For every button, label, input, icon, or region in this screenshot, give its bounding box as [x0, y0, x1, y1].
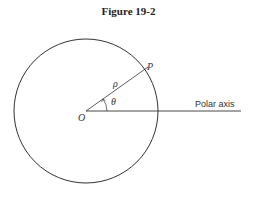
polar-axis-label: Polar axis: [195, 99, 235, 109]
radius-line: [86, 67, 148, 111]
radius-label: ρ: [112, 78, 118, 89]
point-label: P: [146, 61, 153, 72]
origin-label: O: [78, 112, 85, 123]
angle-label: θ: [111, 96, 116, 107]
polar-diagram: O P ρ θ Polar axis: [0, 0, 257, 197]
